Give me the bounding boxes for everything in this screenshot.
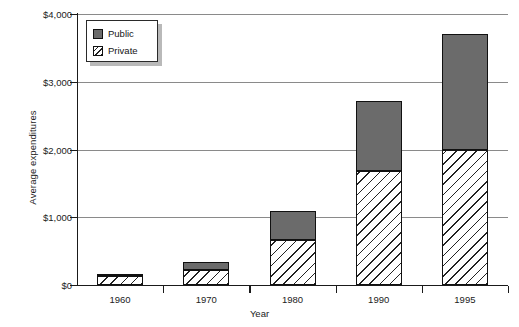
x-axis-tick-mark bbox=[249, 286, 250, 293]
bar-segment-public bbox=[356, 101, 402, 171]
chart-legend: Public Private bbox=[86, 20, 158, 62]
bar-segment-public bbox=[270, 211, 316, 240]
x-axis-tick-mark bbox=[163, 286, 164, 293]
legend-item-private: Private bbox=[93, 43, 152, 58]
y-axis-tick-label: $1,000 bbox=[18, 212, 72, 223]
x-axis-tick-mark bbox=[336, 286, 337, 293]
bar-segment-public bbox=[97, 274, 143, 276]
x-axis-title: Year bbox=[0, 308, 519, 319]
y-axis-tick-mark bbox=[70, 285, 78, 286]
y-axis-tick-labels: $0$1,000$2,000$3,000$4,000 bbox=[18, 0, 72, 327]
x-axis-tick-label: 1970 bbox=[166, 294, 246, 305]
legend-swatch-private-icon bbox=[93, 46, 103, 56]
legend-swatch-public-icon bbox=[93, 29, 103, 39]
y-axis-tick-mark bbox=[70, 82, 78, 83]
x-axis-tick-label: 1980 bbox=[253, 294, 333, 305]
bar-group bbox=[356, 14, 402, 285]
bar-group bbox=[442, 14, 488, 285]
y-axis-tick-mark bbox=[70, 150, 78, 151]
bar-segment-private bbox=[270, 240, 316, 285]
bar-segment-private bbox=[97, 276, 143, 285]
bar-segment-private bbox=[442, 150, 488, 286]
legend-item-public: Public bbox=[93, 26, 152, 41]
x-axis-tick-mark bbox=[422, 286, 423, 293]
bar-segment-public bbox=[183, 262, 229, 270]
bar-segment-private bbox=[356, 171, 402, 285]
x-axis-tick-label: 1995 bbox=[425, 294, 505, 305]
x-axis-tick-label: 1960 bbox=[80, 294, 160, 305]
bar-segment-public bbox=[442, 34, 488, 149]
bar-chart: Average expenditures Year $0$1,000$2,000… bbox=[0, 0, 519, 327]
x-axis-tick-mark bbox=[508, 286, 509, 293]
legend-label-public: Public bbox=[108, 28, 134, 39]
x-axis-tick-label: 1990 bbox=[339, 294, 419, 305]
y-axis-tick-label: $3,000 bbox=[18, 76, 72, 87]
y-axis-tick-label: $4,000 bbox=[18, 9, 72, 20]
y-axis-tick-label: $0 bbox=[18, 280, 72, 291]
y-axis-tick-label: $2,000 bbox=[18, 144, 72, 155]
bar-group bbox=[270, 14, 316, 285]
y-axis-tick-mark bbox=[70, 217, 78, 218]
bar-segment-private bbox=[183, 270, 229, 285]
legend-label-private: Private bbox=[108, 45, 138, 56]
y-axis-tick-mark bbox=[70, 14, 78, 15]
bar-group bbox=[183, 14, 229, 285]
